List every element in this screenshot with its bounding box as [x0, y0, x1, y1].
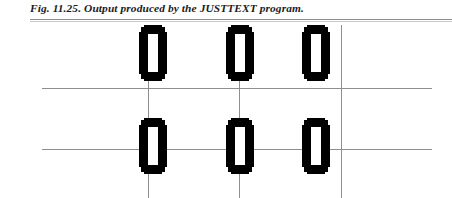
glyph-top-serif: [144, 25, 162, 29]
glyph-left-stem: [226, 125, 228, 167]
glyph-left-stem: [302, 32, 304, 74]
glyph-0: [140, 27, 166, 79]
glyph-right-stem: [328, 125, 330, 167]
glyph-bottom-serif: [231, 77, 249, 81]
glyph-right-stem: [252, 32, 254, 74]
glyph-bottom-serif: [231, 170, 249, 174]
glyph-bottom-serif: [307, 77, 325, 81]
glyph-bottom-serif: [144, 170, 162, 174]
glyph-left-stem: [139, 125, 141, 167]
glyph-right-stem: [165, 125, 167, 167]
glyph-counter: [311, 127, 321, 165]
glyph-left-stem: [139, 32, 141, 74]
glyph-top-serif: [307, 118, 325, 122]
figure-number: Fig. 11.25.: [30, 2, 81, 14]
glyph-right-stem: [252, 125, 254, 167]
glyph-0: [303, 120, 329, 172]
glyph-top-serif: [307, 25, 325, 29]
glyph-top-serif: [231, 118, 249, 122]
figure-image: [0, 22, 452, 198]
caption-divider: [30, 19, 452, 20]
glyph-counter: [148, 127, 158, 165]
figure-caption: Fig. 11.25. Output produced by the JUSTT…: [30, 1, 430, 17]
glyph-counter: [311, 34, 321, 72]
glyph-0: [303, 27, 329, 79]
glyph-0: [227, 27, 253, 79]
glyph-0: [227, 120, 253, 172]
glyph-counter: [235, 127, 245, 165]
glyph-bottom-serif: [144, 77, 162, 81]
glyph-right-stem: [328, 32, 330, 74]
figure-page: Fig. 11.25. Output produced by the JUSTT…: [0, 0, 452, 198]
glyph-counter: [235, 34, 245, 72]
upper-baseline: [42, 88, 432, 89]
figure-caption-text: Output produced by the JUSTTEXT program.: [81, 2, 304, 14]
right-guide: [341, 25, 342, 198]
glyph-bottom-serif: [307, 170, 325, 174]
glyph-top-serif: [144, 118, 162, 122]
glyph-counter: [148, 34, 158, 72]
glyph-0: [140, 120, 166, 172]
glyph-top-serif: [231, 25, 249, 29]
glyph-left-stem: [302, 125, 304, 167]
glyph-right-stem: [165, 32, 167, 74]
glyph-left-stem: [226, 32, 228, 74]
